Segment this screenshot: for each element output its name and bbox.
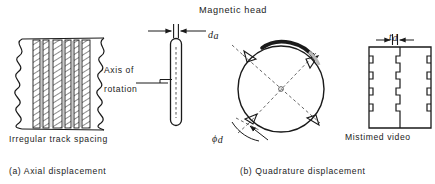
- panel-b-caption: (b) Quadrature displacement: [240, 166, 366, 176]
- rotation-circle-group: [232, 42, 324, 141]
- figure-root: Magnetic head da Axis of rotation ϕd td …: [0, 0, 435, 184]
- panel-a-caption: (a) Axial displacement: [9, 166, 106, 176]
- mistimed-video-group: [369, 34, 431, 128]
- figure-title: Magnetic head: [199, 5, 267, 15]
- angle-label-phid: ϕd: [212, 128, 223, 146]
- axis-of-rotation-label-line1: Axis of: [104, 65, 134, 75]
- magnetic-head-bar-group: [136, 24, 206, 126]
- irregular-track-spacing-caption: Irregular track spacing: [9, 134, 108, 144]
- mistimed-video-caption: Mistimed video: [345, 132, 411, 142]
- track-band-group: [15, 38, 104, 130]
- dimension-label-da: da: [208, 24, 219, 42]
- dimension-label-td: td: [389, 26, 398, 44]
- axis-of-rotation-label-line2: rotation: [104, 84, 137, 94]
